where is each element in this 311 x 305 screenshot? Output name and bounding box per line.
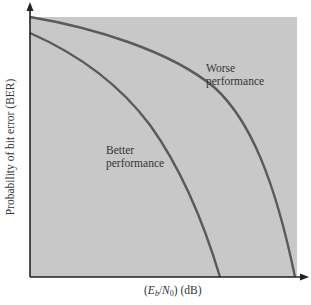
x-axis-arrow-icon	[300, 274, 309, 281]
better-label-line2: performance	[106, 157, 164, 170]
ber-chart: Worse performance Better performance Pro…	[0, 0, 311, 305]
better-label-line1: Better	[106, 144, 134, 156]
y-axis-arrow-icon	[27, 2, 34, 11]
y-axis-label: Probability of bit error (BER)	[4, 78, 17, 215]
worse-label-line1: Worse	[206, 62, 235, 74]
worse-label-line2: performance	[206, 75, 264, 88]
x-axis-label: (Eb/N0) (dB)	[144, 284, 202, 298]
